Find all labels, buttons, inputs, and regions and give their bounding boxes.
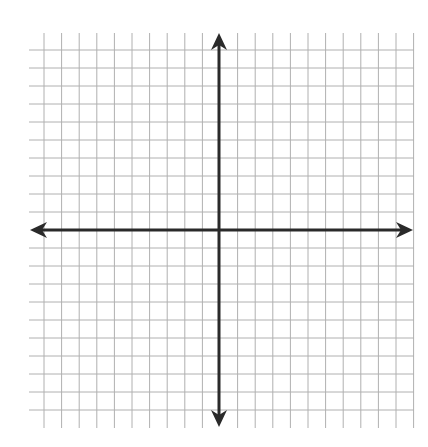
axes bbox=[30, 33, 413, 427]
coordinate-plane bbox=[0, 0, 428, 447]
